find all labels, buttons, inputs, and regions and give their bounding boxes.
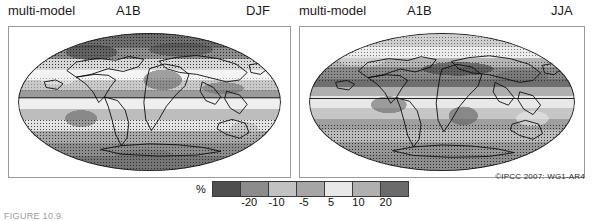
colorbar: % [196, 181, 409, 197]
map-panel-jja [299, 26, 585, 178]
panel-jja-scenario-label: A1B [407, 2, 432, 20]
panel-jja-season-label: JJA [551, 2, 573, 20]
colorbar-swatch-2 [269, 182, 297, 196]
figure-container: multi-model A1B DJF multi-model A1B JJA [0, 0, 592, 221]
colorbar-tick--10: -10 [269, 196, 285, 208]
colorbar-tick-10: 10 [352, 196, 364, 208]
colorbar-swatches [212, 181, 409, 197]
colorbar-tick-20: 20 [380, 196, 392, 208]
panel-djf-model-label: multi-model [8, 2, 75, 20]
coastline-overlay-djf [18, 33, 281, 163]
panel-djf-scenario-label: A1B [116, 2, 141, 20]
colorbar-swatch-6 [381, 182, 408, 196]
coastline-overlay-jja [309, 33, 575, 164]
colorbar-unit-label: % [196, 183, 206, 195]
colorbar-tick--20: -20 [241, 196, 257, 208]
colorbar-tick--5: -5 [299, 196, 309, 208]
map-panel-djf [8, 26, 291, 178]
colorbar-tick-labels: -20-10-551020 [222, 196, 386, 210]
copyright-credit: ©IPCC 2007: WG1-AR4 [495, 172, 585, 181]
colorbar-swatch-5 [353, 182, 381, 196]
map-plot-area-djf [9, 27, 290, 177]
panel-djf-season-label: DJF [246, 2, 270, 20]
map-plot-area-jja [300, 27, 584, 177]
colorbar-tick-5: 5 [328, 196, 334, 208]
globe-djf [18, 33, 281, 171]
panel-jja-model-label: multi-model [299, 2, 366, 20]
colorbar-swatch-3 [297, 182, 325, 196]
colorbar-swatch-1 [241, 182, 269, 196]
colorbar-swatch-4 [325, 182, 353, 196]
colorbar-swatch-0 [213, 182, 241, 196]
globe-jja [309, 33, 575, 171]
figure-caption: FIGURE 10.9 [4, 211, 61, 221]
